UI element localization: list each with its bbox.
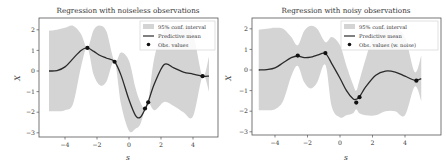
band-swatch-icon — [344, 24, 355, 29]
y-tick-label: −1 — [26, 88, 35, 95]
x-tick-label: −2 — [303, 139, 312, 146]
right-x-axis-label: s — [344, 153, 348, 162]
y-tick-label: −2 — [26, 108, 35, 115]
left-legend-band-label: 95% conf. interval — [158, 24, 206, 30]
observation-point — [143, 106, 147, 110]
observation-point — [201, 74, 205, 78]
left-y-axis-label: X — [13, 75, 22, 82]
obs-marker-swatch-icon — [348, 43, 352, 47]
band-swatch-icon — [143, 24, 154, 29]
observation-point — [296, 53, 300, 57]
y-tick-label: −3 — [239, 128, 248, 135]
y-tick-label: 0 — [244, 66, 248, 73]
y-tick-label: 1 — [244, 46, 248, 53]
x-tick-label: 0 — [338, 139, 342, 146]
left-legend-mean-label: Predictive mean — [158, 33, 201, 39]
y-tick-label: 2 — [244, 25, 248, 32]
observation-point — [85, 46, 89, 50]
x-tick-label: 0 — [127, 141, 131, 148]
right-legend: 95% conf. interval Predictive mean Obs. … — [341, 21, 438, 50]
observation-point — [323, 51, 327, 55]
right-chart-title: Regression with noisy observations — [282, 6, 411, 15]
y-tick-label: 1 — [31, 47, 35, 54]
left-legend-obs-label: Obs. values — [158, 42, 189, 48]
x-tick-label: −2 — [92, 141, 101, 148]
observation-point — [414, 79, 418, 83]
x-tick-label: −4 — [60, 141, 69, 148]
x-tick-label: 2 — [159, 141, 163, 148]
y-tick-label: −1 — [239, 87, 248, 94]
left-x-axis-label: s — [126, 153, 130, 162]
y-tick-label: 2 — [31, 26, 35, 33]
x-tick-label: 4 — [191, 141, 195, 148]
right-legend-obs-label: Obs. values (w. noise) — [359, 42, 416, 48]
observation-point — [113, 60, 117, 64]
x-tick-label: 2 — [371, 139, 375, 146]
y-tick-label: −3 — [26, 129, 35, 136]
right-y-axis-label: X — [224, 75, 233, 82]
observation-point — [354, 100, 358, 104]
right-legend-band-label: 95% conf. interval — [359, 24, 407, 30]
obs-marker-swatch-icon — [147, 43, 151, 47]
y-tick-label: −2 — [239, 107, 248, 114]
left-chart-title: Regression with noiseless observations — [56, 6, 199, 15]
observation-point — [146, 100, 150, 104]
figure: Regression with noiseless observations −… — [0, 0, 446, 165]
left-legend: 95% conf. interval Predictive mean Obs. … — [140, 21, 215, 50]
y-tick-label: 0 — [31, 67, 35, 74]
right-legend-mean-label: Predictive mean — [359, 33, 402, 39]
observation-point — [357, 95, 361, 99]
left-chart: Regression with noiseless observations −… — [13, 6, 218, 162]
right-chart: Regression with noisy observations −4−20… — [224, 6, 441, 162]
x-tick-label: 4 — [403, 139, 407, 146]
x-tick-label: −4 — [270, 139, 279, 146]
